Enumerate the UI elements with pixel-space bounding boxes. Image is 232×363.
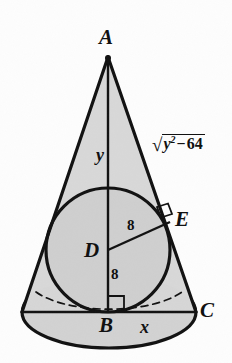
vertex-label-E: E [175, 209, 189, 230]
radicand-variable: y [163, 135, 170, 152]
radicand-exponent: 2 [171, 134, 176, 145]
vertex-label-C: C [200, 300, 214, 321]
radical-sign-icon: √ [152, 134, 162, 155]
radicand-constant: 64 [187, 135, 203, 152]
radical-expression: √y2−64 [152, 134, 205, 153]
cone-diagram: A y √y2−64 E 8 D 8 B x C [0, 0, 232, 363]
vertex-label-A: A [99, 27, 113, 48]
vertex-label-D: D [84, 240, 99, 261]
radicand: y2−64 [162, 134, 204, 152]
sphere-radius-vertical-label-8: 8 [111, 267, 119, 282]
height-label-y: y [96, 146, 104, 164]
cone-diagram-svg [0, 0, 232, 363]
sphere-radius-slant-label-8: 8 [127, 218, 135, 233]
slant-length-label: √y2−64 [152, 134, 205, 153]
base-radius-label-x: x [140, 318, 149, 336]
radicand-minus-sign: − [176, 135, 187, 152]
vertex-label-B: B [99, 315, 113, 336]
